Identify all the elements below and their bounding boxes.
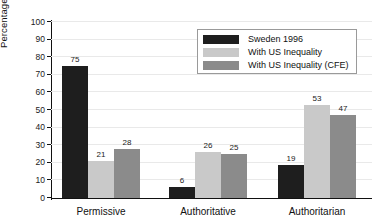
y-tick-label: 70 bbox=[36, 71, 45, 80]
bar-value-label: 47 bbox=[339, 105, 348, 113]
bar-value-label: 28 bbox=[123, 139, 132, 147]
y-tick-label: 90 bbox=[36, 35, 45, 44]
bar-value-label: 21 bbox=[97, 151, 106, 159]
y-tick-mark bbox=[47, 21, 51, 22]
y-tick-label: 40 bbox=[36, 123, 45, 132]
legend-item-with-us-inequality-cfe: With US Inequality (CFE) bbox=[203, 59, 351, 72]
y-tick-mark bbox=[47, 127, 51, 128]
bar-value-label: 6 bbox=[180, 177, 184, 185]
legend-swatch-icon bbox=[203, 35, 239, 44]
bar-group: 752128Permissive bbox=[62, 22, 140, 198]
bar-value-label: 19 bbox=[287, 155, 296, 163]
legend-item-sweden-1996: Sweden 1996 bbox=[203, 33, 351, 46]
bar[interactable]: 47 bbox=[330, 115, 356, 198]
bar[interactable]: 19 bbox=[278, 165, 304, 198]
bar[interactable]: 6 bbox=[169, 187, 195, 198]
y-tick-label: 100 bbox=[31, 18, 45, 27]
chart-legend: Sweden 1996 With US Inequality With US I… bbox=[197, 29, 357, 74]
legend-item-with-us-inequality: With US Inequality bbox=[203, 46, 351, 59]
legend-swatch-icon bbox=[203, 61, 239, 70]
y-tick-mark bbox=[47, 74, 51, 75]
y-tick-label: 60 bbox=[36, 88, 45, 97]
y-tick-mark bbox=[47, 91, 51, 92]
x-axis-category-label: Permissive bbox=[77, 206, 126, 217]
y-tick-mark bbox=[47, 56, 51, 57]
bar[interactable]: 53 bbox=[304, 105, 330, 198]
y-axis-title: Percentage of parents bbox=[0, 0, 9, 48]
bar-value-label: 75 bbox=[71, 56, 80, 64]
bar-value-label: 53 bbox=[313, 95, 322, 103]
bar[interactable]: 75 bbox=[62, 66, 88, 198]
y-tick-mark bbox=[47, 179, 51, 180]
y-tick-label: 80 bbox=[36, 53, 45, 62]
y-tick-label: 30 bbox=[36, 141, 45, 150]
bar[interactable]: 26 bbox=[195, 152, 221, 198]
bar[interactable]: 28 bbox=[114, 149, 140, 198]
y-tick-mark bbox=[47, 39, 51, 40]
legend-swatch-icon bbox=[203, 48, 239, 57]
y-tick-label: 50 bbox=[36, 106, 45, 115]
bar[interactable]: 25 bbox=[221, 154, 247, 198]
legend-label: With US Inequality bbox=[248, 48, 322, 57]
x-axis-line bbox=[51, 198, 372, 199]
y-tick-label: 20 bbox=[36, 159, 45, 168]
legend-label: With US Inequality (CFE) bbox=[248, 61, 349, 70]
y-tick-mark bbox=[47, 197, 51, 198]
bar-chart: Percentage of parents 010203040506070809… bbox=[0, 0, 389, 222]
bar-value-label: 26 bbox=[204, 142, 213, 150]
y-tick-mark bbox=[47, 162, 51, 163]
y-tick-mark bbox=[47, 109, 51, 110]
x-axis-category-label: Authoritarian bbox=[289, 206, 346, 217]
x-axis-category-label: Authoritative bbox=[180, 206, 236, 217]
y-tick-label: 0 bbox=[40, 194, 45, 203]
legend-label: Sweden 1996 bbox=[248, 35, 303, 44]
bar-value-label: 25 bbox=[230, 144, 239, 152]
y-tick-mark bbox=[47, 144, 51, 145]
y-tick-label: 10 bbox=[36, 176, 45, 185]
bar[interactable]: 21 bbox=[88, 161, 114, 198]
